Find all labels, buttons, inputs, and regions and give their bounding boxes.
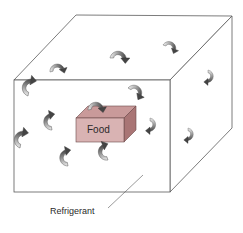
cube <box>14 15 232 192</box>
refrigeration-diagram <box>0 0 243 233</box>
food-label: Food <box>87 124 110 135</box>
refrigerant-label: Refrigerant <box>50 206 95 216</box>
